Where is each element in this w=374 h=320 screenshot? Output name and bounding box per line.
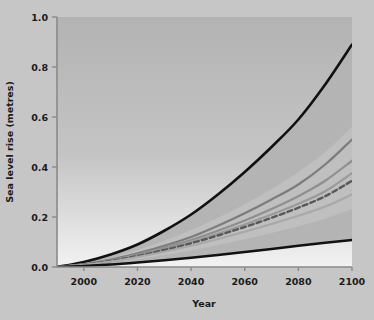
- x-tick-label: 2060: [232, 276, 259, 287]
- x-tick-label: 2080: [285, 276, 312, 287]
- y-tick-label: 0.2: [31, 212, 48, 223]
- plot-area: [57, 17, 352, 267]
- x-tick-label: 2020: [124, 276, 151, 287]
- y-tick-label: 1.0: [31, 12, 48, 23]
- y-tick-label: 0.6: [31, 112, 48, 123]
- sea-level-rise-chart: 2000202020402060208021000.00.20.40.60.81…: [0, 0, 374, 320]
- chart-canvas: 2000202020402060208021000.00.20.40.60.81…: [0, 0, 374, 320]
- x-tick-label: 2100: [339, 276, 366, 287]
- x-tick-label: 2000: [71, 276, 98, 287]
- y-tick-label: 0.4: [31, 162, 48, 173]
- x-axis-title: Year: [191, 298, 216, 309]
- y-tick-label: 0.8: [31, 62, 48, 73]
- x-tick-label: 2040: [178, 276, 205, 287]
- y-tick-label: 0.0: [31, 262, 48, 273]
- y-axis-title: Sea level rise (metres): [4, 81, 15, 203]
